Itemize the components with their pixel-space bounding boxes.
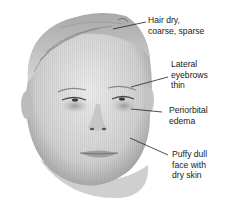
- label-eyebrows-line-1: Lateral: [171, 59, 197, 69]
- label-eyebrows-line-3: thin: [171, 80, 185, 90]
- hypothyroid-face-figure: Hair dry,coarse, sparse Lateraleyebrowst…: [0, 0, 231, 204]
- label-eyebrows-line-2: eyebrows: [171, 70, 208, 80]
- label-hair: Hair dry,coarse, sparse: [148, 15, 204, 36]
- label-face: Puffy dullface withdry skin: [172, 149, 207, 181]
- label-face-line-1: Puffy dull: [172, 149, 207, 159]
- label-hair-line-2: coarse, sparse: [148, 26, 204, 36]
- label-hair-line-1: Hair dry,: [148, 15, 180, 25]
- left-ear: [21, 91, 33, 119]
- right-ear: [144, 87, 154, 113]
- label-periorbital-line-2: edema: [169, 116, 195, 126]
- label-periorbital: Periorbitaledema: [169, 105, 208, 126]
- label-face-line-3: dry skin: [172, 170, 202, 180]
- label-periorbital-line-1: Periorbital: [169, 105, 208, 115]
- label-eyebrows: Lateraleyebrowsthin: [171, 59, 208, 91]
- label-face-line-2: face with: [172, 160, 206, 170]
